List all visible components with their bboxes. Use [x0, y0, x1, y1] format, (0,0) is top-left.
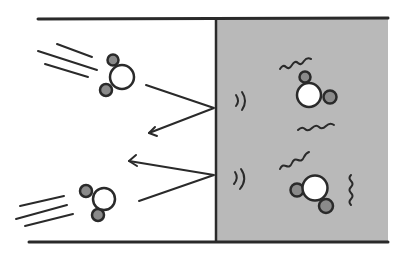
molecule-icon [100, 55, 134, 97]
bounce-arrow-top [146, 85, 214, 136]
top-boundary-line [38, 18, 388, 19]
bounce-arrow-bottom [129, 155, 214, 201]
diagram-canvas [0, 0, 413, 255]
condensed-region [216, 18, 388, 242]
motion-lines-icon [38, 44, 97, 77]
motion-lines-icon [16, 196, 73, 226]
molecule-icon [80, 185, 115, 221]
